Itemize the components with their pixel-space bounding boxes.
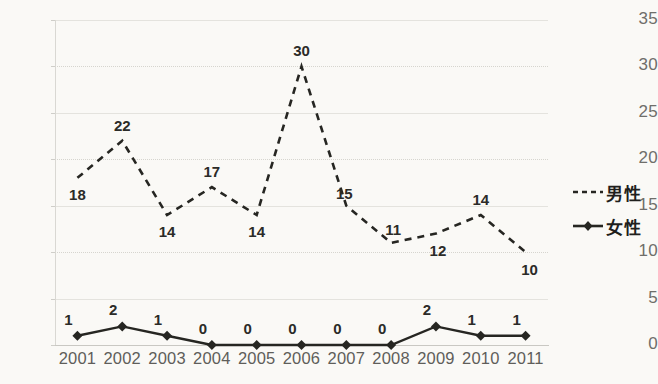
female-data-label-2008: 0 — [378, 320, 386, 337]
x-axis-line — [55, 345, 549, 346]
x-axis-tick-2004: 2004 — [193, 349, 231, 368]
gridline-25 — [55, 113, 548, 114]
male-data-label-2004: 17 — [204, 163, 221, 180]
y-axis-line — [55, 20, 56, 346]
y-axis-tick-20: 20 — [614, 148, 658, 168]
y-axis-tick-5: 5 — [614, 288, 658, 308]
x-axis-tick-2011: 2011 — [507, 349, 543, 368]
male-data-label-2005: 14 — [248, 223, 265, 240]
female-data-label-2009: 2 — [423, 301, 431, 318]
female-marker — [431, 321, 441, 331]
y-axis-tick-35: 35 — [614, 9, 658, 29]
x-axis-tick-2007: 2007 — [328, 349, 366, 368]
female-marker — [72, 331, 82, 341]
legend-label-female: 女性 — [606, 214, 641, 239]
male-data-label-2003: 14 — [159, 223, 176, 240]
y-axis-tick-25: 25 — [614, 102, 658, 122]
gridline-10 — [55, 252, 548, 254]
legend: 男性 女性 — [572, 175, 654, 243]
gridline-20 — [55, 159, 548, 161]
x-axis-tick-2002: 2002 — [103, 349, 141, 368]
male-data-label-2007: 15 — [336, 184, 353, 201]
chart-container: 05101520253035 2001200220032004200520062… — [0, 0, 658, 384]
female-data-label-2011: 1 — [512, 310, 520, 327]
male-data-label-2011: 10 — [521, 261, 538, 278]
y-axis-tick-0: 0 — [614, 334, 658, 354]
series-layer — [0, 0, 658, 384]
x-axis-tick-2006: 2006 — [283, 349, 321, 368]
female-marker — [476, 331, 486, 341]
y-axis-tick-10: 10 — [614, 241, 658, 261]
male-data-label-2001: 18 — [69, 185, 86, 202]
female-data-label-2001: 1 — [64, 310, 72, 327]
x-axis-tick-2009: 2009 — [417, 349, 455, 368]
x-axis-tick-2003: 2003 — [148, 349, 186, 368]
legend-item-female[interactable]: 女性 — [572, 209, 654, 243]
gridline-35 — [55, 20, 548, 21]
y-axis-tick-30: 30 — [614, 55, 658, 75]
x-axis-tick-2008: 2008 — [372, 349, 410, 368]
female-data-label-2010: 1 — [468, 310, 476, 327]
male-data-label-2010: 14 — [472, 191, 489, 208]
female-marker — [162, 331, 172, 341]
female-data-label-2003: 1 — [154, 310, 162, 327]
male-data-label-2009: 12 — [430, 241, 447, 258]
gridline-30 — [55, 66, 548, 68]
female-line — [77, 326, 525, 345]
female-data-label-2006: 0 — [288, 320, 296, 337]
female-marker — [117, 321, 127, 331]
female-marker — [521, 331, 531, 341]
female-data-label-2007: 0 — [333, 320, 341, 337]
male-data-label-2008: 11 — [385, 220, 401, 237]
gridline-5 — [55, 299, 548, 300]
x-axis-tick-2010: 2010 — [462, 349, 500, 368]
male-data-label-2002: 22 — [114, 116, 131, 133]
dashed-line-icon — [572, 185, 604, 199]
male-data-label-2006: 30 — [293, 42, 310, 59]
solid-line-diamond-icon — [572, 219, 604, 233]
legend-label-male: 男性 — [606, 180, 641, 205]
x-axis-tick-2001: 2001 — [59, 349, 97, 368]
legend-item-male[interactable]: 男性 — [572, 175, 654, 209]
female-data-label-2004: 0 — [199, 320, 207, 337]
female-data-label-2005: 0 — [244, 320, 252, 337]
x-axis-tick-2005: 2005 — [238, 349, 276, 368]
female-data-label-2002: 2 — [109, 301, 117, 318]
